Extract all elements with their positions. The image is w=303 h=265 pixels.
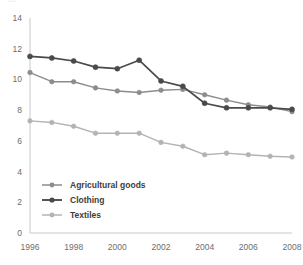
- data-point-marker: [224, 105, 229, 110]
- x-tick-label: 1998: [64, 242, 83, 252]
- data-point-marker: [224, 98, 229, 103]
- data-point-marker: [290, 107, 295, 112]
- data-point-marker: [71, 124, 76, 129]
- x-axis-tick-labels: 1996199820002002200420062008: [21, 242, 302, 252]
- data-point-marker: [268, 154, 273, 159]
- legend-label: Textiles: [70, 210, 101, 220]
- legend-marker-icon: [50, 183, 55, 188]
- series-container: [28, 54, 295, 159]
- x-tick-label: 2000: [108, 242, 127, 252]
- y-tick-label: 10: [13, 74, 23, 84]
- series-line: [30, 121, 292, 157]
- y-tick-label: 0: [17, 228, 22, 238]
- data-point-marker: [159, 140, 164, 145]
- cropped-header-strip: ...: [0, 0, 303, 10]
- legend-marker-icon: [49, 197, 54, 202]
- data-point-marker: [50, 120, 55, 125]
- legend-marker-icon: [50, 213, 55, 218]
- data-point-marker: [202, 92, 207, 97]
- data-point-marker: [93, 65, 98, 70]
- y-tick-label: 2: [17, 197, 22, 207]
- y-tick-label: 14: [13, 13, 23, 23]
- data-point-marker: [268, 105, 273, 110]
- y-tick-label: 8: [17, 105, 22, 115]
- x-tick-label: 2004: [195, 242, 214, 252]
- x-tick-label: 1996: [21, 242, 40, 252]
- legend-item-clothing[interactable]: Clothing: [42, 195, 104, 205]
- data-point-marker: [224, 151, 229, 156]
- data-point-marker: [137, 90, 142, 95]
- data-point-marker: [159, 78, 164, 83]
- x-tick-label: 2006: [239, 242, 258, 252]
- y-tick-label: 12: [13, 44, 23, 54]
- data-point-marker: [71, 59, 76, 64]
- x-tick-label: 2008: [283, 242, 302, 252]
- data-point-marker: [115, 89, 120, 94]
- data-point-marker: [202, 152, 207, 157]
- data-point-marker: [202, 101, 207, 106]
- chart-legend: Agricultural goodsClothingTextiles: [42, 180, 146, 220]
- data-point-marker: [93, 131, 98, 136]
- data-point-marker: [159, 88, 164, 93]
- data-point-marker: [181, 144, 186, 149]
- legend-item-textiles[interactable]: Textiles: [42, 210, 101, 220]
- legend-item-agricultural-goods[interactable]: Agricultural goods: [42, 180, 146, 190]
- line-chart: ... 02468101214 199619982000200220042006…: [0, 0, 303, 265]
- y-tick-label: 6: [17, 136, 22, 146]
- data-point-marker: [137, 58, 142, 63]
- series-clothing: [28, 54, 295, 112]
- data-point-marker: [93, 86, 98, 91]
- legend-label: Clothing: [70, 195, 104, 205]
- data-point-marker: [28, 119, 33, 124]
- y-tick-label: 4: [17, 167, 22, 177]
- legend-label: Agricultural goods: [70, 180, 146, 190]
- data-point-marker: [115, 66, 120, 71]
- data-point-marker: [71, 79, 76, 84]
- data-point-marker: [50, 79, 55, 84]
- data-point-marker: [49, 55, 54, 60]
- series-textiles: [28, 119, 295, 160]
- data-point-marker: [290, 155, 295, 160]
- data-point-marker: [115, 131, 120, 136]
- data-point-marker: [246, 152, 251, 157]
- cropped-header-text: ...: [8, 0, 16, 4]
- chart-canvas: 02468101214 1996199820002002200420062008…: [0, 0, 303, 265]
- data-point-marker: [137, 131, 142, 136]
- x-tick-label: 2002: [152, 242, 171, 252]
- data-point-marker: [28, 54, 33, 59]
- data-point-marker: [28, 70, 33, 75]
- data-point-marker: [180, 84, 185, 89]
- y-axis-tick-labels: 02468101214: [13, 13, 23, 238]
- data-point-marker: [246, 105, 251, 110]
